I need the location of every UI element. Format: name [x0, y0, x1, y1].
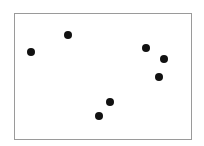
data-point [142, 44, 150, 52]
data-point [160, 55, 168, 63]
data-point [155, 73, 163, 81]
data-point [27, 48, 35, 56]
plot-frame [14, 13, 192, 140]
data-point [95, 112, 103, 120]
scatter-plot-area [15, 14, 191, 139]
data-point [64, 31, 72, 39]
data-point [106, 98, 114, 106]
chart-title [0, 0, 1, 1]
